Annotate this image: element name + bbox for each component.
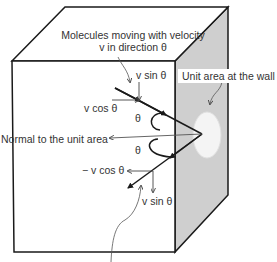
molecules-label-line2: v in direction θ	[99, 41, 167, 53]
unit-area-ellipse	[193, 112, 221, 158]
molecules-label-line1: Molecules moving with velocity	[61, 29, 205, 41]
v-sin-bottom-label: v sin θ	[142, 195, 173, 207]
theta-lower-label: θ	[135, 144, 141, 156]
v-sin-top-label: v sin θ	[136, 69, 167, 81]
theta-upper-label: θ	[135, 112, 141, 124]
normal-label: Normal to the unit area	[1, 133, 108, 145]
unit-area-label: Unit area at the wall	[182, 70, 275, 82]
v-cos-top-label: v cos θ	[84, 102, 117, 114]
front-face	[12, 61, 175, 252]
neg-v-cos-label: − v cos θ	[82, 164, 124, 176]
diagram-canvas: Molecules moving with velocity v in dire…	[0, 0, 277, 262]
